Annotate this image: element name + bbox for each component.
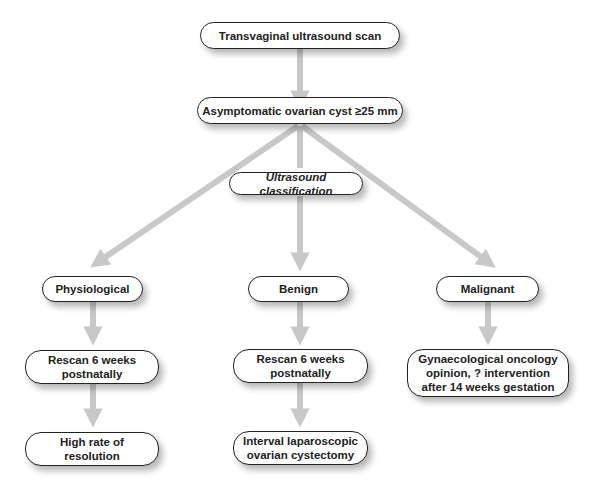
node-gynaecological-oncology: Gynaecological oncology opinion, ? inter… (407, 349, 569, 397)
node-malignant: Malignant (436, 276, 539, 302)
node-high-rate-resolution: High rate of resolution (25, 432, 159, 466)
node-benign-rescan: Rescan 6 weeks postnatally (233, 349, 368, 383)
node-ultrasound-classification: Ultrasound classification (229, 172, 363, 195)
node-asymptomatic-cyst: Asymptomatic ovarian cyst ≥25 mm (197, 97, 403, 124)
node-laparoscopic-cystectomy: Interval laparoscopic ovarian cystectomy (233, 431, 368, 465)
node-transvaginal-scan: Transvaginal ultrasound scan (200, 22, 400, 49)
node-physiological-rescan: Rescan 6 weeks postnatally (25, 350, 159, 384)
node-benign: Benign (248, 276, 349, 302)
node-physiological: Physiological (42, 276, 143, 302)
arrows-layer (0, 0, 600, 493)
